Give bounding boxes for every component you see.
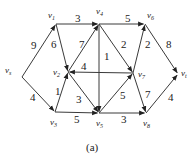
edge-weight-v7-v8: 7 [145,88,151,100]
edge-weight-v1-v2: 6 [51,38,57,50]
node-label-v2: v2 [53,67,60,78]
edges-group [22,24,177,113]
edge-weight-v1-v4: 3 [75,12,81,24]
node-label-vs: vs [5,65,12,76]
node-label-v1: v1 [48,10,55,21]
edge-weight-v4-v7: 2 [121,38,127,50]
edge-weight-v3-v5: 5 [74,113,80,125]
edge-v2-v5 [68,72,98,112]
node-label-vt: vt [181,68,187,79]
edge-vs-v1 [22,25,55,77]
figure-caption: (a) [86,141,99,154]
edge-weight-v5-v8: 3 [121,113,127,125]
edge-v7-v2 [69,72,133,73]
edge-weight-v7-v2: 4 [81,60,87,72]
edge-v5-v7 [99,74,132,113]
node-label-v4: v4 [96,6,103,17]
node-label-v3: v3 [50,117,57,128]
edge-weight-v7-v6: 2 [145,38,151,50]
edge-weight-vs-v1: 9 [31,39,37,51]
edge-weight-v5-v7: 5 [120,89,126,101]
edge-weight-v2-v5: 3 [76,93,82,105]
edge-vs-v3 [22,77,54,111]
node-label-v5: v5 [96,118,103,129]
edge-weight-v4-v5: 1 [104,50,110,62]
edge-weight-v4-v6: 5 [125,12,131,24]
edge-v7-v6 [133,25,145,73]
edge-v4-v7 [99,24,132,72]
edge-weight-v6-vt: 8 [166,38,172,50]
edge-weight-vs-v3: 4 [30,91,36,103]
edge-weight-v8-vt: 4 [168,91,174,103]
node-label-v7: v7 [138,69,146,80]
node-label-v6: v6 [147,10,154,21]
node-label-v8: v8 [143,118,150,129]
edge-weight-v2-v4: 7 [79,38,85,50]
weighted-digraph: 943671431252855374 vsv1v2v3v4v5v6v7v8vt … [0,0,194,155]
edge-weight-v3-v2: 1 [55,85,61,97]
edge-v1-v2 [56,24,68,71]
